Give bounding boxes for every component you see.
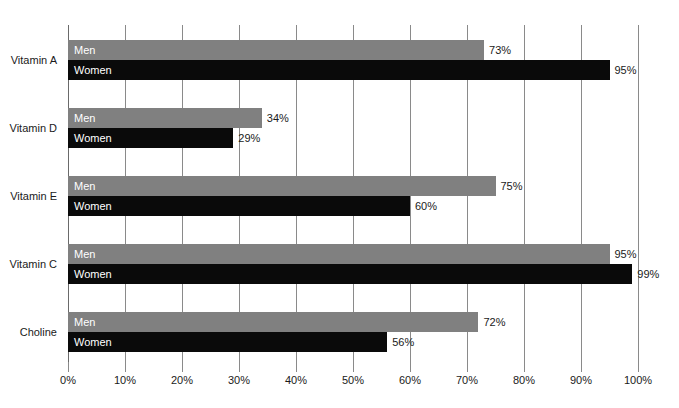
tick-mark bbox=[410, 362, 411, 372]
bar-row: Women60% bbox=[68, 196, 638, 216]
bar-men[interactable]: Men bbox=[68, 244, 610, 264]
bar-group: Men95%Women99% bbox=[68, 244, 638, 284]
bar-series-label: Men bbox=[74, 317, 95, 328]
bar-row: Men34% bbox=[68, 108, 638, 128]
bar-series-label: Women bbox=[74, 269, 112, 280]
tick-mark bbox=[125, 362, 126, 372]
bar-value-label: 73% bbox=[484, 45, 511, 56]
bar-men[interactable]: Men bbox=[68, 40, 484, 60]
bar-value-label: 95% bbox=[610, 65, 637, 76]
bar-row: Women99% bbox=[68, 264, 638, 284]
bar-row: Women29% bbox=[68, 128, 638, 148]
tick-label: 10% bbox=[114, 375, 136, 386]
bar-value-label: 29% bbox=[233, 133, 260, 144]
tick-label: 70% bbox=[456, 375, 478, 386]
bar-value-label: 72% bbox=[478, 317, 505, 328]
bar-women[interactable]: Women bbox=[68, 264, 632, 284]
bar-series-label: Men bbox=[74, 113, 95, 124]
bar-value-label: 75% bbox=[496, 181, 523, 192]
bar-women[interactable]: Women bbox=[68, 332, 387, 352]
bar-row: Men75% bbox=[68, 176, 638, 196]
bar-series-label: Men bbox=[74, 45, 95, 56]
tick-mark bbox=[239, 362, 240, 372]
tick-mark bbox=[524, 362, 525, 372]
bar-series-label: Women bbox=[74, 133, 112, 144]
bar-group: Men75%Women60% bbox=[68, 176, 638, 216]
tick-label: 50% bbox=[342, 375, 364, 386]
bar-men[interactable]: Men bbox=[68, 312, 478, 332]
tick-mark bbox=[68, 362, 69, 372]
bar-group: Men73%Women95% bbox=[68, 40, 638, 80]
bar-value-label: 95% bbox=[610, 249, 637, 260]
bar-women[interactable]: Women bbox=[68, 60, 610, 80]
bar-value-label: 56% bbox=[387, 337, 414, 348]
tick-label: 40% bbox=[285, 375, 307, 386]
category-label: Vitamin E bbox=[0, 191, 62, 202]
bar-value-label: 60% bbox=[410, 201, 437, 212]
bar-series-label: Men bbox=[74, 249, 95, 260]
tick-mark bbox=[638, 362, 639, 372]
bar-series-label: Women bbox=[74, 65, 112, 76]
bar-men[interactable]: Men bbox=[68, 108, 262, 128]
plot-area: Men73%Women95%Men34%Women29%Men75%Women6… bbox=[68, 25, 638, 362]
bar-men[interactable]: Men bbox=[68, 176, 496, 196]
bar-series-label: Men bbox=[74, 181, 95, 192]
tick-label: 20% bbox=[171, 375, 193, 386]
tick-label: 30% bbox=[228, 375, 250, 386]
category-label: Choline bbox=[0, 327, 62, 338]
tick-label: 80% bbox=[513, 375, 535, 386]
bar-row: Women56% bbox=[68, 332, 638, 352]
tick-label: 60% bbox=[399, 375, 421, 386]
bar-row: Men73% bbox=[68, 40, 638, 60]
bar-row: Men72% bbox=[68, 312, 638, 332]
tick-label: 100% bbox=[624, 375, 652, 386]
value-axis: 0%10%20%30%40%50%60%70%80%90%100% bbox=[68, 362, 638, 408]
category-label: Vitamin D bbox=[0, 123, 62, 134]
tick-mark bbox=[182, 362, 183, 372]
tick-mark bbox=[467, 362, 468, 372]
bar-series-label: Women bbox=[74, 337, 112, 348]
bar-value-label: 99% bbox=[632, 269, 659, 280]
bar-women[interactable]: Women bbox=[68, 196, 410, 216]
bar-chart: Vitamin AVitamin DVitamin EVitamin CChol… bbox=[0, 0, 679, 408]
category-axis: Vitamin AVitamin DVitamin EVitamin CChol… bbox=[0, 0, 62, 408]
tick-mark bbox=[581, 362, 582, 372]
tick-mark bbox=[296, 362, 297, 372]
bar-women[interactable]: Women bbox=[68, 128, 233, 148]
bar-series-label: Women bbox=[74, 201, 112, 212]
tick-label: 0% bbox=[60, 375, 76, 386]
bar-row: Men95% bbox=[68, 244, 638, 264]
bar-group: Men72%Women56% bbox=[68, 312, 638, 352]
bar-value-label: 34% bbox=[262, 113, 289, 124]
tick-mark bbox=[353, 362, 354, 372]
tick-label: 90% bbox=[570, 375, 592, 386]
bar-group: Men34%Women29% bbox=[68, 108, 638, 148]
bar-row: Women95% bbox=[68, 60, 638, 80]
gridline-100 bbox=[638, 25, 639, 362]
category-label: Vitamin C bbox=[0, 259, 62, 270]
category-label: Vitamin A bbox=[0, 55, 62, 66]
